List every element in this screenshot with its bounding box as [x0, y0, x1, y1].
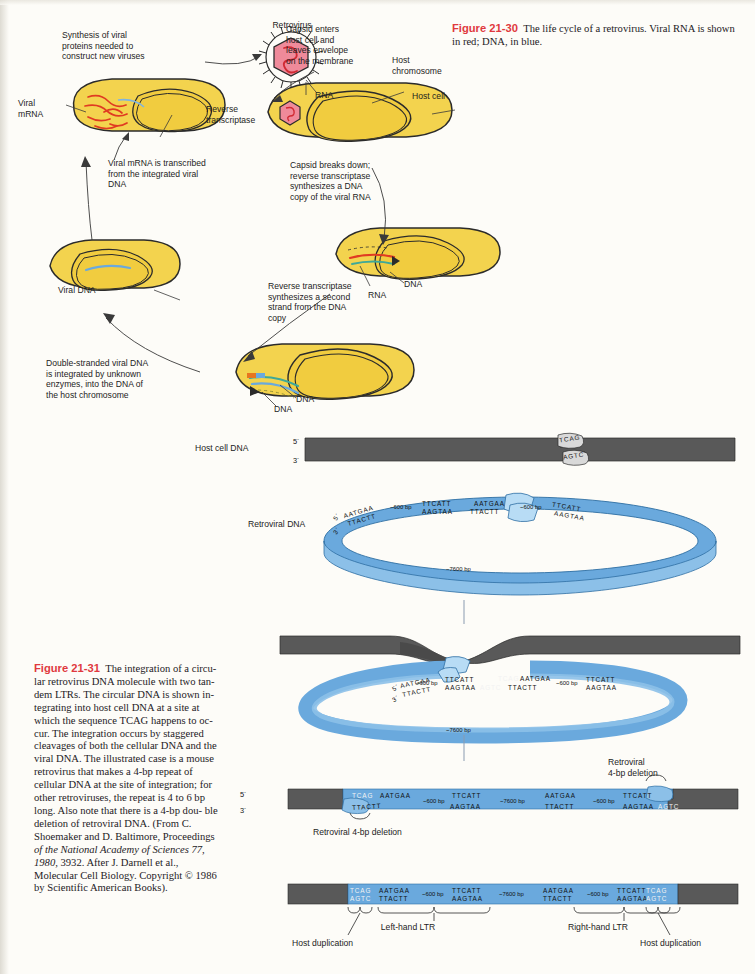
integrated-host-top-seq: TCAG	[352, 792, 373, 799]
label-viral-mrna: Viral mRNA	[18, 98, 58, 119]
circle-seq-top-right-1: TTCATT	[422, 500, 451, 507]
label-host-duplication-right: Host duplication	[640, 938, 750, 949]
label-capsid-breaks: Capsid breaks down; reverse transcriptas…	[290, 160, 410, 202]
circle-seq-bottom-right-1: AAGTAA	[422, 508, 453, 515]
figure-2131-caption-l2: dem LTRs. The circular DNA is shown in-	[34, 689, 214, 700]
integrated-seq-top-left: AATGAA	[380, 792, 411, 799]
final-circle-size: ~7600 bp	[499, 891, 524, 898]
cross-bp-left: ~600 bp	[416, 680, 437, 687]
integrated-seq-top-right-1: TTCATT	[452, 792, 481, 799]
label-retroviral-dna: Retroviral DNA	[248, 519, 328, 530]
circle-bp-left: ~600 bp	[390, 504, 411, 511]
figure-2131-caption-l0: The integration of a circu-	[105, 663, 216, 674]
circle-bp-right: ~600 bp	[520, 504, 541, 511]
label-reverse-transcriptase: Reverse transcriptase	[206, 104, 276, 125]
label-deletion-right: Retroviral 4-bp deletion	[608, 757, 688, 778]
cross-seq-top-left-2: AATGAA	[520, 675, 551, 682]
final-host-dup-top-left: TCAG	[350, 887, 371, 894]
figure-2131-caption-l1: lar retrovirus DNA molecule with two tan…	[34, 676, 215, 687]
final-seq-bottom-left: TTACTT	[379, 895, 408, 902]
figure-2131-label: Figure 21-31	[34, 662, 100, 674]
label-host-chromosome: Host chromosome	[392, 55, 458, 76]
final-bar-annotations	[288, 905, 738, 965]
host-cell-dna-bar	[305, 433, 735, 473]
stage-connector-1	[462, 600, 466, 624]
label-double-stranded: Double-stranded viral DNA is integrated …	[46, 358, 194, 400]
cross-host-bottom-seq: AGTC	[480, 684, 501, 691]
cross-seq-bottom-right: AAGTAA	[445, 684, 476, 691]
final-host-dup-top-right: TCAG	[646, 887, 667, 894]
final-seq-bottom-left-2: TTACTT	[543, 895, 572, 902]
integrated-bp-2: ~600 bp	[593, 798, 614, 805]
figure-2130-caption: Figure 21-30 The life cycle of a retrovi…	[452, 22, 744, 49]
label-dna-3: DNA	[274, 404, 306, 415]
circle-seq-top-left-2: AATGAA	[474, 500, 505, 507]
cross-seq-top-right-2: TTCATT	[586, 676, 615, 683]
cross-bp-right: ~600 bp	[556, 680, 577, 687]
textbook-page: Figure 21-30 The life cycle of a retrovi…	[0, 0, 755, 974]
figure-2131-caption-l17: American Books).	[90, 882, 168, 893]
final-seq-top-left-2: AATGAA	[543, 887, 574, 894]
host-dna-3prime: 3´	[293, 456, 300, 465]
integrated-5prime: 5´	[240, 790, 247, 799]
cross-circle-size: ~7600 bp	[446, 727, 471, 734]
integrated-seq-top-left-2: AATGAA	[545, 792, 576, 799]
label-host-cell-dna: Host cell DNA	[195, 443, 270, 454]
integrated-seq-top-right-2: TTCATT	[623, 792, 652, 799]
final-host-dup-bottom-left: AGTC	[350, 895, 371, 902]
label-dna-2: DNA	[296, 394, 328, 405]
retroviral-dna-circle	[320, 495, 720, 605]
label-right-hand-ltr: Right-hand LTR	[538, 922, 658, 933]
integrated-circle-size: ~7600 bp	[500, 798, 525, 805]
integrated-3prime: 3´	[240, 806, 247, 815]
cell-double-strand	[236, 344, 414, 399]
figure-2131-caption-l3: tegrating into host cell DNA at a site a…	[34, 702, 199, 713]
cross-seq-bottom-left-2: TTACTT	[508, 684, 537, 691]
label-left-hand-ltr: Left-hand LTR	[348, 922, 468, 933]
final-host-dup-bottom-right: AGTC	[646, 895, 667, 902]
final-seq-bottom-right-2: AAGTAA	[617, 895, 648, 902]
label-host-cell: Host cell	[412, 91, 472, 102]
figure-2131-caption: Figure 21-31 The integration of a circu-…	[34, 662, 218, 895]
label-second-strand: Reverse transcriptase synthesizes a seco…	[268, 281, 384, 323]
circle-size-label: ~7600 bp	[446, 566, 471, 573]
final-seq-top-left: AATGAA	[379, 887, 410, 894]
final-bp-1: ~600 bp	[422, 891, 443, 898]
figure-2131-caption-l13: Shoemaker and D. Baltimore, Proceedings	[34, 831, 215, 842]
crossing-integration-diagram	[280, 628, 740, 738]
label-rna-2: RNA	[368, 290, 400, 301]
label-capsid-enters: Capsid enters host cell and leaves envel…	[286, 24, 374, 66]
final-seq-top-right-2: TTCATT	[617, 887, 646, 894]
figure-2131-caption-l6: cleavages of both the cellular DNA and	[34, 740, 201, 751]
host-dna-5prime: 5´	[293, 437, 300, 446]
cell-viral-mrna	[73, 79, 225, 132]
integrated-bp-1: ~600 bp	[423, 798, 444, 805]
label-dna-1: DNA	[404, 279, 436, 290]
integrated-seq-bottom-left-2: TTACTT	[545, 803, 574, 810]
circle-seq-bottom-left-2: TTACTT	[470, 508, 499, 515]
integrated-seq-bottom-right-2: AAGTAA	[623, 803, 654, 810]
cross-seq-top-right: TTCATT	[445, 676, 474, 683]
label-mrna-transcribed: Viral mRNA is transcribed from the integ…	[108, 158, 238, 190]
figure-2130-label: Figure 21-30	[452, 22, 518, 34]
cross-host-top-seq: TCAG	[498, 675, 519, 682]
label-synthesis: Synthesis of viral proteins needed to co…	[62, 30, 192, 62]
label-deletion-left: Retroviral 4-bp deletion	[313, 827, 443, 838]
label-rna: RNA	[315, 90, 345, 101]
final-seq-top-right-1: TTCATT	[452, 887, 481, 894]
cell-viral-dna	[50, 240, 180, 290]
cell-dna-copy	[336, 228, 500, 279]
figure-2131-caption-l5: cur. The integration occurs by staggered	[34, 728, 204, 739]
cross-seq-bottom-right-2: AAGTAA	[586, 684, 617, 691]
integrated-host-bottom-seq: AGTC	[658, 803, 679, 810]
stage-connector-2	[462, 735, 466, 761]
label-host-duplication-left: Host duplication	[292, 938, 402, 949]
label-viral-dna: Viral DNA	[58, 285, 120, 296]
final-bp-2: ~600 bp	[587, 891, 608, 898]
figure-2131-caption-l4: which the sequence TCAG happens to oc-	[34, 715, 213, 726]
integrated-seq-bottom-right-1: AAGTAA	[450, 803, 481, 810]
final-seq-bottom-right-1: AAGTAA	[452, 895, 483, 902]
